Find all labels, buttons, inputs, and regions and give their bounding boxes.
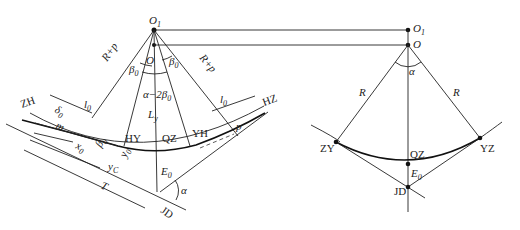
right-radius-left: [336, 45, 408, 142]
radial-rp-left: [92, 30, 154, 118]
label-hy: HY: [125, 132, 141, 144]
right-figure: O1 O α R R ZY YZ QZ E0 JD: [311, 22, 502, 212]
jd-point: [406, 185, 411, 190]
radial-rp-right: [154, 30, 238, 136]
angle-arc-alpha-jd: [175, 180, 179, 200]
curve-geometry-diagram: O1 O R+p R+p β0 β0 α−2β0 l0 l0 Ly ZH HY …: [0, 0, 520, 230]
label-delta0: δ0: [52, 103, 67, 120]
label-r-plus-p-left: R+p: [98, 40, 120, 64]
label-o1: O1: [149, 14, 161, 29]
yz-point: [478, 136, 483, 141]
label-o-center: O: [146, 54, 154, 66]
label-e0-left: E0: [160, 165, 172, 180]
label-right-alpha: α: [409, 65, 415, 77]
right-curve-ext-right: [480, 122, 502, 138]
label-yh: YH: [192, 127, 208, 139]
label-right-r-left: R: [358, 86, 366, 98]
label-l0-right: l0: [220, 93, 227, 108]
qz-point: [406, 162, 411, 167]
label-yz: YZ: [480, 142, 495, 154]
label-x0: x0: [72, 139, 87, 157]
label-jd-right: JD: [394, 185, 406, 197]
label-jd-left: JD: [159, 204, 176, 221]
label-qz-left: QZ: [162, 132, 177, 144]
tangent-right: [160, 112, 268, 192]
right-curve-ext-left: [311, 125, 340, 142]
label-beta0-spiral: β0: [92, 135, 110, 152]
label-right-o: O: [413, 38, 421, 50]
label-alpha-minus-2beta0: α−2β0: [143, 88, 171, 103]
label-alpha-jd: α: [181, 184, 187, 196]
label-zh: ZH: [19, 94, 37, 110]
label-beta0-left: β0: [128, 63, 138, 78]
label-right-r-right: R: [452, 86, 460, 98]
l0-right-dim: [212, 96, 255, 111]
tangent-left: [6, 124, 186, 210]
label-l0-left: l0: [84, 98, 91, 113]
label-beta0-right: β0: [168, 55, 178, 70]
label-hz: HZ: [261, 91, 279, 107]
x0-dim: [30, 140, 100, 168]
label-right-e0: E0: [410, 167, 422, 182]
label-r-plus-p-right: R+p: [197, 51, 220, 75]
right-radius-right: [408, 45, 480, 138]
label-p: p: [235, 120, 242, 132]
label-right-o1: O1: [413, 22, 425, 37]
radial-qz: [154, 30, 157, 192]
label-ly: Ly: [147, 108, 158, 123]
label-zy: ZY: [320, 142, 335, 154]
label-qz-right: QZ: [410, 148, 425, 160]
